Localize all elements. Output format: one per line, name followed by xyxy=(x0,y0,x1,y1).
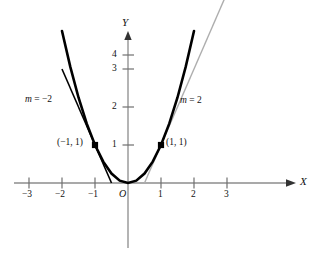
x-axis-arrowhead xyxy=(286,179,296,187)
x-tick-label-1: 1 xyxy=(158,190,163,200)
slope-annotation-right: m = 2 xyxy=(180,96,202,106)
x-tick-label--1: −1 xyxy=(88,190,98,200)
slope-annotation-right-var: m xyxy=(180,95,187,105)
slope-annotation-left-value: = −2 xyxy=(32,94,52,104)
y-axis-label: Y xyxy=(122,17,128,28)
point-label-left: (−1, 1) xyxy=(57,138,83,148)
plot-canvas xyxy=(0,0,316,258)
slope-annotation-right-value: = 2 xyxy=(187,95,202,105)
y-axis-arrowhead xyxy=(124,31,131,40)
x-tick-label--2: −2 xyxy=(55,190,65,200)
slope-annotation-left-var: m xyxy=(25,94,32,104)
x-tick-label-3: 3 xyxy=(224,190,229,200)
x-axis-label: X xyxy=(300,176,307,187)
y-tick-label-3: 3 xyxy=(112,64,117,74)
x-tick-label--3: −3 xyxy=(22,190,32,200)
graph-figure: −3 −2 −1 1 2 3 1 2 3 4 X Y O (−1, 1) (1,… xyxy=(0,0,316,258)
point-label-right: (1, 1) xyxy=(166,138,187,148)
y-tick-label-4: 4 xyxy=(112,50,117,60)
y-tick-label-1: 1 xyxy=(112,140,117,150)
point-marker-right xyxy=(158,142,164,148)
x-tick-label-2: 2 xyxy=(191,190,196,200)
y-tick-label-2: 2 xyxy=(112,102,117,112)
origin-label: O xyxy=(119,189,126,199)
slope-annotation-left: m = −2 xyxy=(25,95,52,105)
point-marker-left xyxy=(92,142,98,148)
